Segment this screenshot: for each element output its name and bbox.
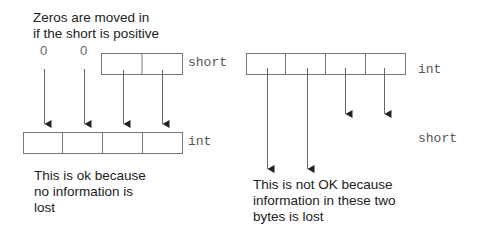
- right-arrows: [268, 68, 385, 169]
- zero-label-2: 0: [80, 43, 87, 58]
- left-short-box: [102, 54, 183, 75]
- right-int-box: [247, 54, 406, 75]
- left-source-label: short: [188, 55, 227, 70]
- left-caption-top: Zeros are moved in if the short is posit…: [33, 10, 159, 42]
- right-target-label: short: [418, 131, 457, 146]
- right-caption-bottom: This is not OK because information in th…: [253, 177, 396, 225]
- left-arrows: [45, 69, 163, 124]
- left-caption-bottom: This is ok because no information is los…: [34, 168, 146, 216]
- right-source-label: int: [418, 62, 441, 77]
- left-target-label: int: [188, 134, 211, 149]
- zero-label-1: 0: [40, 43, 47, 58]
- left-int-box: [24, 133, 183, 154]
